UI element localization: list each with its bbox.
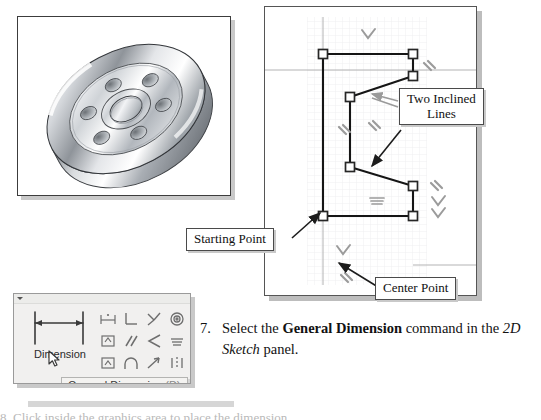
- auto-dimension-icon[interactable]: [96, 330, 119, 352]
- angle-constraint-icon[interactable]: [142, 330, 165, 352]
- step-prefix: Select the: [222, 320, 282, 336]
- callout-two-inclined-lines: Two Inclined Lines: [399, 88, 484, 125]
- offset-constraint-icon[interactable]: [142, 352, 165, 374]
- flange-part-render: [18, 17, 230, 195]
- flyout-body: Dimension: [14, 304, 190, 383]
- callout-starting-point: Starting Point: [186, 228, 274, 251]
- constraint-icon-grid[interactable]: [96, 308, 188, 374]
- dimension-icon: [26, 310, 92, 346]
- tangent-constraint-icon[interactable]: [142, 308, 165, 330]
- collinear-constraint-icon[interactable]: [165, 330, 188, 352]
- dimension-small-icon[interactable]: [96, 308, 119, 330]
- tooltip-general-dimension: General Dimension (D): [61, 377, 188, 384]
- dimension-button[interactable]: Dimension: [26, 310, 92, 366]
- instruction-step-7: 7. Select the General Dimension command …: [200, 318, 535, 359]
- tooltip-title: General Dimension: [68, 379, 162, 384]
- step-number: 7.: [200, 318, 220, 339]
- step-body: Select the General Dimension command in …: [222, 318, 535, 359]
- tooltip-shortcut: (D): [165, 379, 180, 384]
- mouse-cursor-icon: [48, 350, 62, 368]
- page-bottom-shadow: [28, 401, 234, 407]
- concentric-constraint-icon[interactable]: [165, 308, 188, 330]
- callout-center-point: Center Point: [375, 277, 456, 300]
- clipped-next-step-text: 8. Click inside the graphics area to pla…: [0, 410, 541, 420]
- perpendicular-constraint-icon[interactable]: [119, 308, 142, 330]
- chevron-down-icon[interactable]: [17, 297, 23, 300]
- sketch-canvas[interactable]: [265, 7, 476, 295]
- step-suffix: panel.: [260, 341, 299, 357]
- show-constraints-icon[interactable]: [96, 352, 119, 374]
- flyout-titlebar[interactable]: [14, 294, 190, 304]
- fillet-constraint-icon[interactable]: [119, 352, 142, 374]
- 2d-sketch-panel-flyout[interactable]: Dimension: [13, 293, 191, 384]
- parallel-constraint-icon[interactable]: [119, 330, 142, 352]
- step-middle: command in the: [402, 320, 503, 336]
- part-render-panel: [17, 16, 231, 196]
- symmetric-constraint-icon[interactable]: [165, 352, 188, 374]
- command-name: General Dimension: [282, 320, 402, 336]
- 2d-sketch-viewport[interactable]: [264, 6, 477, 296]
